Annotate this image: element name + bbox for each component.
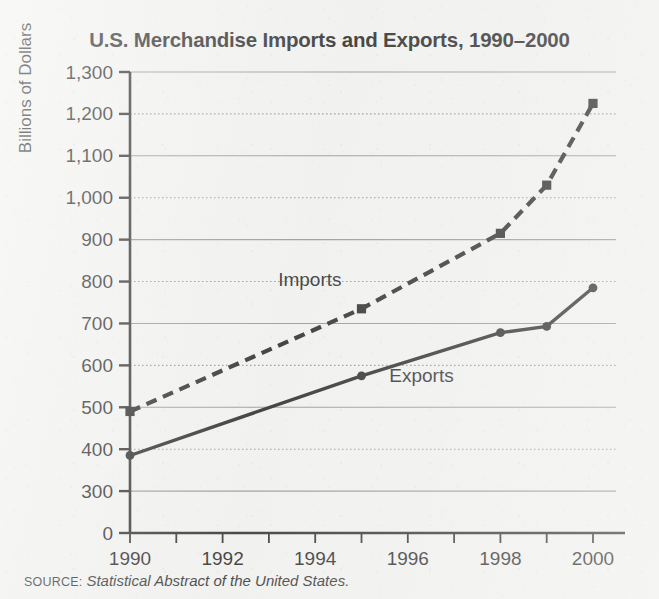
y-tick-label: 600 <box>81 355 113 376</box>
data-point-marker <box>542 322 551 331</box>
x-axis-ticks: 199019921994199619982000 <box>109 533 614 569</box>
data-point-marker <box>589 283 598 292</box>
data-point-marker <box>496 229 505 238</box>
data-point-marker <box>542 181 551 190</box>
x-tick-label: 1990 <box>109 548 151 569</box>
y-tick-label: 300 <box>81 481 113 502</box>
source-text: Statistical Abstract of the United State… <box>86 572 349 589</box>
series-label-imports: Imports <box>278 269 341 290</box>
x-tick-label: 1992 <box>201 548 243 569</box>
y-tick-label: 400 <box>81 439 113 460</box>
gridlines-group <box>130 72 616 491</box>
data-point-marker <box>588 99 597 108</box>
y-tick-label: 1,300 <box>65 62 113 83</box>
data-point-marker <box>357 371 366 380</box>
y-tick-label: 700 <box>81 313 113 334</box>
data-point-marker <box>125 407 134 416</box>
y-tick-label: 1,000 <box>65 187 113 208</box>
y-tick-label: 900 <box>81 229 113 250</box>
y-tick-label: 500 <box>81 397 113 418</box>
x-tick-label: 1998 <box>479 548 521 569</box>
y-tick-label: 1,100 <box>65 145 113 166</box>
x-tick-label: 1994 <box>294 548 337 569</box>
line-chart-plot: 03004005006007008009001,0001,1001,2001,3… <box>0 0 659 599</box>
series-inline-labels: ImportsExports <box>278 269 454 386</box>
series-label-exports: Exports <box>389 365 453 386</box>
data-point-marker <box>496 328 505 337</box>
y-axis-ticks: 03004005006007008009001,0001,1001,2001,3… <box>65 62 130 544</box>
source-label: SOURCE: <box>24 575 82 589</box>
y-tick-label: 1,200 <box>65 103 113 124</box>
x-tick-label: 1996 <box>387 548 429 569</box>
chart-figure: U.S. Merchandise Imports and Exports, 19… <box>0 0 659 599</box>
data-point-marker <box>126 451 135 460</box>
x-tick-label: 2000 <box>572 548 614 569</box>
y-tick-label: 0 <box>102 523 113 544</box>
source-line: SOURCE: Statistical Abstract of the Unit… <box>24 572 349 589</box>
y-tick-label: 800 <box>81 271 113 292</box>
data-point-marker <box>357 304 366 313</box>
data-series-group <box>125 99 597 460</box>
